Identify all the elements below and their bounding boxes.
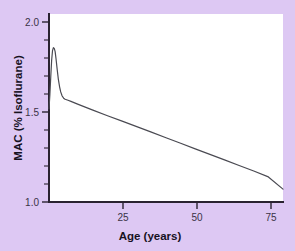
plot-area-background [49, 14, 283, 202]
x-tick-label-75: 75 [265, 212, 277, 223]
figure-panel: 2.0 1.5 1.0 25 50 75 Age (years) MAC (% … [0, 0, 295, 251]
x-tick-label-25: 25 [117, 212, 129, 223]
y-tick-label-1-5: 1.5 [25, 107, 39, 118]
x-tick-label-50: 50 [191, 212, 203, 223]
y-axis-major-ticks [42, 22, 49, 202]
y-tick-label-2-0: 2.0 [25, 17, 39, 28]
y-axis-title: MAC (% Isoflurane) [12, 55, 24, 161]
x-axis-title: Age (years) [119, 230, 182, 242]
mac-isoflurane-age-chart: 2.0 1.5 1.0 25 50 75 Age (years) MAC (% … [0, 0, 295, 251]
y-tick-label-1-0: 1.0 [25, 197, 39, 208]
x-axis-major-ticks [123, 202, 271, 209]
